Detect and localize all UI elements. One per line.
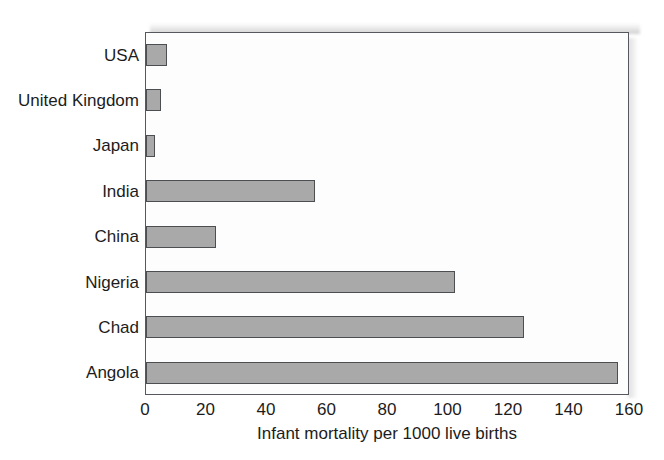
y-axis-label-china: China	[0, 227, 139, 247]
bar	[146, 180, 315, 202]
y-axis-label-japan: Japan	[0, 136, 139, 156]
y-axis-label-usa: USA	[0, 46, 139, 66]
y-axis-label-united-kingdom: United Kingdom	[0, 91, 139, 111]
x-tick-label-140: 140	[554, 400, 582, 420]
bar-row	[146, 305, 628, 350]
x-tick-label-80: 80	[378, 400, 397, 420]
y-axis-label-chad: Chad	[0, 318, 139, 338]
bar-row	[146, 260, 628, 305]
chart-figure: USAUnited KingdomJapanIndiaChinaNigeriaC…	[0, 0, 664, 460]
y-axis-label-india: India	[0, 182, 139, 202]
x-tick-label-120: 120	[494, 400, 522, 420]
x-tick-label-20: 20	[196, 400, 215, 420]
bar-row	[146, 124, 628, 169]
x-axis-title: Infant mortality per 1000 live births	[145, 424, 629, 444]
page-shadow-right	[628, 38, 638, 398]
bar-row	[146, 33, 628, 78]
y-axis-label-nigeria: Nigeria	[0, 273, 139, 293]
bar-row	[146, 78, 628, 123]
x-tick-label-60: 60	[317, 400, 336, 420]
bar-row	[146, 215, 628, 260]
bar-row	[146, 351, 628, 396]
x-tick-label-0: 0	[140, 400, 149, 420]
bar	[146, 89, 161, 111]
x-tick-label-100: 100	[433, 400, 461, 420]
x-tick-label-160: 160	[615, 400, 643, 420]
bar	[146, 271, 455, 293]
x-tick-label-40: 40	[257, 400, 276, 420]
bar-row	[146, 169, 628, 214]
plot-area	[145, 32, 629, 395]
bar	[146, 226, 216, 248]
bar	[146, 135, 155, 157]
y-axis-label-angola: Angola	[0, 363, 139, 383]
bar	[146, 362, 618, 384]
bar	[146, 44, 167, 66]
bar	[146, 316, 524, 338]
